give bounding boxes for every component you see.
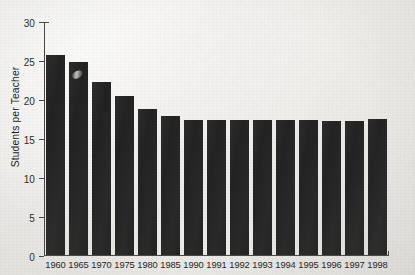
x-tick-label-1990: 1990 [182, 260, 205, 270]
x-tick-label-1965: 1965 [67, 260, 90, 270]
bar-1996 [322, 121, 340, 254]
bar-1994 [276, 120, 294, 254]
x-axis-tick-labels: 1960196519701975198019851990199119921993… [44, 256, 389, 275]
scan-smudge-artifact [71, 69, 84, 81]
plot-area: 051015202530 196019651970197519801985199… [44, 22, 389, 256]
bar-1992 [230, 120, 248, 255]
y-tick-label: 25 [24, 56, 35, 67]
bar-1965 [69, 62, 87, 254]
x-tick-label-1997: 1997 [343, 260, 366, 270]
bar-1997 [345, 121, 363, 254]
x-tick-label-1993: 1993 [251, 260, 274, 270]
x-tick-label-1985: 1985 [159, 260, 182, 270]
x-tick-label-1996: 1996 [320, 260, 343, 270]
x-tick-label-1992: 1992 [228, 260, 251, 270]
bar-1991 [207, 120, 225, 255]
bar-1993 [253, 120, 271, 255]
y-tick-label: 5 [29, 212, 35, 223]
x-tick-label-1991: 1991 [205, 260, 228, 270]
y-tick-label: 15 [24, 134, 35, 145]
y-tick-label: 10 [24, 173, 35, 184]
bar-chart-figure: 051015202530 196019651970197519801985199… [0, 0, 415, 275]
bar-1980 [138, 109, 156, 255]
x-tick-label-1975: 1975 [113, 260, 136, 270]
y-tick-label: 30 [24, 17, 35, 28]
x-tick-label-1980: 1980 [136, 260, 159, 270]
x-tick-label-1994: 1994 [274, 260, 297, 270]
bar-1960 [46, 55, 64, 255]
bar-1990 [184, 120, 202, 254]
x-tick-label-1998: 1998 [366, 260, 389, 270]
bar-series [44, 22, 389, 255]
x-tick-label-1970: 1970 [90, 260, 113, 270]
y-tick-label: 20 [24, 95, 35, 106]
bar-1998 [368, 119, 386, 255]
y-axis-title: Students per Teacher [7, 0, 23, 234]
x-tick-label-1995: 1995 [297, 260, 320, 270]
bar-1970 [92, 82, 110, 255]
x-tick-label-1960: 1960 [44, 260, 67, 270]
bar-1975 [115, 96, 133, 254]
bar-1995 [299, 120, 317, 254]
y-tick-label: 0 [29, 251, 35, 262]
bar-1985 [161, 116, 179, 255]
